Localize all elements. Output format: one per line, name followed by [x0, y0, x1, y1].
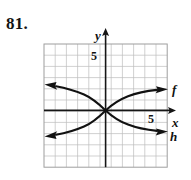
curve-label-h: h — [170, 129, 177, 144]
x-axis-label: x — [171, 115, 179, 130]
graph-figure: y x 5 5 f h — [0, 0, 191, 180]
y-axis-label: y — [93, 28, 101, 43]
figure-page: 81. — [0, 0, 191, 180]
graph-svg: y x 5 5 f h — [0, 0, 191, 180]
curve-label-f: f — [172, 82, 178, 97]
x-axis-tick-label: 5 — [148, 112, 154, 126]
y-axis-tick-label: 5 — [91, 49, 97, 63]
